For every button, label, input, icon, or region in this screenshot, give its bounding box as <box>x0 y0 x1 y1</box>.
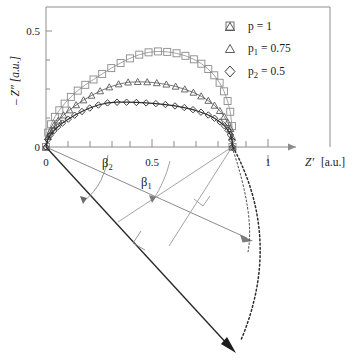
legend-label-2: p2=0.5 <box>248 65 285 80</box>
data-curves <box>43 48 236 151</box>
origin-ray-beta2 <box>46 147 229 346</box>
y-axis-title: – Z″ [a.u.] <box>9 56 21 106</box>
figure-canvas: 0.5 0 – Z″ [a.u.] 0 0.5 1 Z′ [a.u.] <box>0 0 355 361</box>
intercept-ray-upper <box>118 147 232 222</box>
series-diamond <box>43 99 236 150</box>
x-axis-ticks <box>68 139 268 163</box>
legend-marker-diamond-icon <box>225 66 235 77</box>
legend: p=1 p1=0.75 p2=0.5 <box>225 20 291 80</box>
beta1-label: β1 <box>141 175 152 191</box>
x-tick-label-1: 1 <box>265 156 271 168</box>
x-tick-label-0.5: 0.5 <box>145 156 159 168</box>
legend-marker-triangle-icon-2 <box>225 45 234 53</box>
x-tick-label-0: 0 <box>43 156 49 168</box>
legend-label-1: p1=0.75 <box>248 42 291 57</box>
right-angle-marker-right <box>194 196 210 206</box>
angle-arc-beta2-arrow-icon <box>80 196 87 204</box>
x-axis <box>46 139 296 163</box>
series-line <box>46 102 232 147</box>
dotted-arc-outer <box>233 147 260 340</box>
y-tick-label-0.5: 0.5 <box>26 25 40 37</box>
intercept-ray-lower <box>169 147 232 246</box>
origin-ray-beta1-arrow-icon <box>240 235 253 243</box>
x-axis-title: Z′ <box>305 156 314 168</box>
x-axis-unit: [a.u.] <box>321 156 345 168</box>
y-axis-ticks <box>46 31 52 118</box>
x-axis-arrow-icon <box>288 144 296 151</box>
x-axis-title-group: Z′ [a.u.] <box>305 152 345 169</box>
cole-cole-figure: 0.5 0 – Z″ [a.u.] 0 0.5 1 Z′ [a.u.] <box>0 0 355 361</box>
beta2-label: β2 <box>102 156 113 172</box>
angle-construction: β2 β1 <box>46 147 260 353</box>
plot-frame <box>46 7 330 147</box>
legend-marker-triangle-icon <box>225 23 234 31</box>
y-tick-label-0: 0 <box>35 141 41 153</box>
legend-label-0: p=1 <box>248 20 272 33</box>
